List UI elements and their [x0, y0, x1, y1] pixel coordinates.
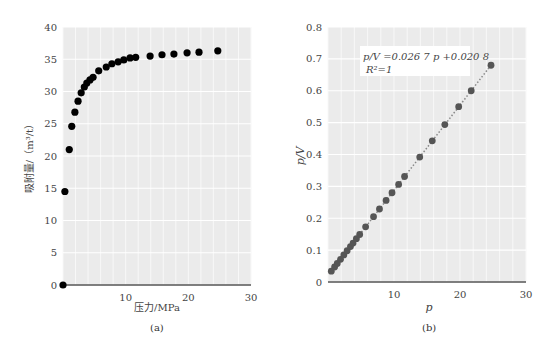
caption-a: (a): [150, 322, 164, 333]
data-point: [195, 49, 202, 56]
data-point: [132, 54, 139, 61]
data-point: [370, 213, 377, 220]
y-tick-label: 25: [44, 118, 57, 129]
data-point: [61, 188, 68, 195]
equation-label: p/V =0.026 7 p +0.020 8: [363, 51, 489, 62]
data-point: [170, 50, 177, 57]
x-axis-title: 压力/MPa: [134, 301, 180, 313]
y-tick-label: 0.3: [306, 181, 322, 192]
y-tick-label: 0.5: [306, 117, 322, 128]
data-point: [71, 109, 78, 116]
r-squared-label: R²=1: [365, 64, 392, 75]
y-tick-label: 0.7: [306, 53, 322, 64]
data-point: [362, 223, 369, 230]
data-point: [158, 51, 165, 58]
data-point: [59, 281, 66, 288]
data-point: [214, 47, 221, 54]
y-tick-label: 0.2: [306, 213, 322, 224]
y-axis-title: p/V: [294, 146, 307, 166]
data-point: [66, 146, 73, 153]
x-tick-label: 20: [182, 292, 195, 303]
data-point: [376, 206, 383, 213]
y-tick-label: 0.4: [306, 149, 322, 160]
x-tick-label: 10: [119, 292, 132, 303]
data-point: [356, 231, 363, 238]
y-axis-title: 吸附量/（m³/t）: [23, 119, 35, 193]
data-point: [89, 74, 96, 81]
data-point: [147, 52, 154, 59]
caption-b: (b): [422, 322, 436, 333]
data-point: [74, 98, 81, 105]
data-point: [383, 197, 390, 204]
data-point: [120, 56, 127, 63]
x-tick-label: 10: [388, 289, 401, 300]
y-tick-label: 0.8: [306, 22, 322, 33]
chart-a: 0510152025303540102030压力/MPa吸附量/（m³/t）: [0, 0, 280, 353]
data-point: [108, 60, 115, 67]
y-tick-label: 35: [44, 54, 57, 65]
data-point: [95, 67, 102, 74]
data-point: [395, 181, 402, 188]
data-point: [441, 121, 448, 128]
y-tick-label: 0.6: [306, 85, 322, 96]
data-point: [183, 49, 190, 56]
y-tick-label: 0: [51, 280, 57, 291]
data-point: [401, 173, 408, 180]
data-point: [488, 62, 495, 69]
y-tick-label: 0.1: [306, 245, 322, 256]
data-point: [468, 87, 475, 94]
x-axis-title: p: [425, 301, 432, 314]
y-tick-label: 30: [44, 86, 57, 97]
data-point: [455, 103, 462, 110]
y-tick-label: 15: [44, 183, 57, 194]
y-tick-label: 40: [44, 22, 57, 33]
chart-b: 00.10.20.30.40.50.60.70.8102030p/V =0.02…: [280, 0, 555, 353]
y-tick-label: 20: [44, 151, 57, 162]
data-point: [389, 189, 396, 196]
x-tick-label: 20: [454, 289, 467, 300]
y-tick-label: 5: [51, 247, 57, 258]
y-tick-label: 10: [44, 215, 57, 226]
data-point: [429, 137, 436, 144]
x-tick-label: 30: [245, 292, 258, 303]
data-point: [416, 154, 423, 161]
x-tick-label: 30: [520, 289, 533, 300]
data-point: [68, 123, 75, 130]
y-tick-label: 0: [316, 277, 322, 288]
